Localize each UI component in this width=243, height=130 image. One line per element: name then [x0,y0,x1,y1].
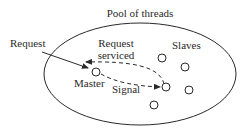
request-arrow [42,52,88,68]
request-label: Request [10,37,45,49]
request-serviced-label-2: serviced [98,49,135,61]
slave-node [162,83,170,91]
request-serviced-label-1: Request [98,37,133,49]
slave-node [181,63,189,71]
master-node [92,68,100,76]
pool-title: Pool of threads [107,7,174,19]
thread-pool-ellipse [44,23,236,125]
master-label: Master [74,77,105,89]
slave-node [150,101,158,109]
thread-pool-diagram: Pool of threads Request Request serviced… [0,0,243,130]
signal-label: Signal [112,83,140,95]
slave-node [158,54,166,62]
slave-node [185,86,193,94]
slaves-label: Slaves [172,39,201,51]
